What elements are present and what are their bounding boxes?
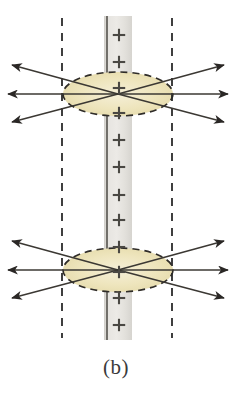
figure-caption: (b) (0, 355, 232, 380)
physics-field-diagram (0, 0, 232, 405)
figure-container: (b) (0, 0, 232, 405)
